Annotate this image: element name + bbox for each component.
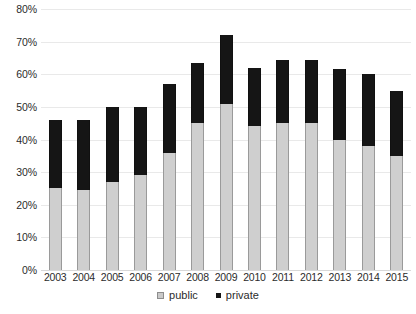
y-tick-label: 10% [0,232,37,243]
bar-segment-public-2013 [333,140,346,271]
y-tick-label: 20% [0,200,37,211]
bar-2013 [333,69,346,270]
bar-segment-private-2007 [163,84,176,153]
bar-segment-public-2006 [134,175,147,270]
bar-2007 [163,84,176,270]
bar-segment-private-2011 [276,60,289,124]
legend-swatch-public-icon [157,292,164,299]
bar-2012 [305,60,318,270]
x-tick-label-2006: 2006 [126,272,156,283]
y-tick-label: 80% [0,4,37,15]
x-tick-label-2011: 2011 [268,272,298,283]
bar-segment-public-2012 [305,123,318,270]
y-tick-label: 70% [0,37,37,48]
bar-segment-public-2011 [276,123,289,270]
y-tick-label: 60% [0,69,37,80]
bars-layer [41,9,411,270]
bar-segment-private-2006 [134,107,147,176]
bar-2014 [362,74,375,270]
legend-item-public[interactable]: public [157,290,198,301]
bar-segment-private-2012 [305,60,318,124]
legend-item-private[interactable]: private [216,290,259,301]
bar-segment-private-2010 [248,68,261,127]
x-tick-label-2003: 2003 [40,272,70,283]
x-tick-label-2010: 2010 [239,272,269,283]
y-tick-label: 40% [0,135,37,146]
x-tick-label-2005: 2005 [97,272,127,283]
x-tick-label-2013: 2013 [325,272,355,283]
y-tick-label: 30% [0,167,37,178]
x-tick-label-2009: 2009 [211,272,241,283]
bar-2015 [390,91,403,270]
plot-area [41,9,411,270]
bar-2004 [77,120,90,270]
bar-2011 [276,60,289,270]
bar-segment-public-2008 [191,123,204,270]
bar-segment-private-2003 [49,120,62,189]
legend-swatch-private-icon [216,293,221,298]
bar-2010 [248,68,261,270]
bar-2003 [49,120,62,270]
bar-segment-public-2010 [248,126,261,270]
bar-segment-public-2015 [390,156,403,270]
bar-segment-private-2014 [362,74,375,146]
legend-label: public [169,290,198,301]
x-tick-label-2015: 2015 [382,272,412,283]
x-tick-label-2007: 2007 [154,272,184,283]
bar-segment-private-2009 [220,35,233,104]
legend-label: private [226,290,259,301]
y-tick-label: 50% [0,102,37,113]
bar-2006 [134,107,147,270]
bar-2008 [191,63,204,270]
bar-segment-public-2007 [163,153,176,270]
bar-segment-public-2005 [106,182,119,270]
bar-segment-private-2013 [333,69,346,139]
x-tick-label-2004: 2004 [69,272,99,283]
bar-segment-private-2008 [191,63,204,123]
chart-legend: publicprivate [0,290,416,301]
y-tick-label: 0% [0,265,37,276]
stacked-bar-chart: 0%10%20%30%40%50%60%70%80% 2003200420052… [0,0,416,314]
x-tick-label-2008: 2008 [183,272,213,283]
bar-segment-private-2004 [77,120,90,190]
bar-segment-public-2004 [77,190,90,270]
bar-segment-public-2014 [362,146,375,270]
bar-2005 [106,107,119,270]
x-tick-label-2014: 2014 [353,272,383,283]
bar-segment-public-2009 [220,104,233,270]
bar-segment-private-2015 [390,91,403,156]
bar-segment-public-2003 [49,188,62,270]
bar-2009 [220,35,233,270]
bar-segment-private-2005 [106,107,119,182]
x-tick-label-2012: 2012 [296,272,326,283]
